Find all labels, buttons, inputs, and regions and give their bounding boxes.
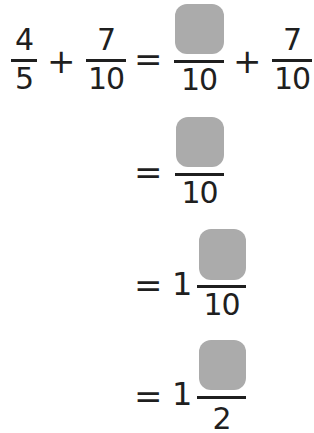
fraction-4-denominator: 10 (272, 64, 312, 94)
equals-sign: = (134, 42, 162, 76)
blank-numerator-box[interactable] (176, 117, 224, 167)
equals-sign: = (134, 268, 162, 302)
fraction-denominator: 10 (197, 290, 246, 320)
whole-number: 1 (172, 268, 192, 300)
equals-sign: = (134, 155, 162, 189)
fraction-denominator: 10 (175, 178, 224, 208)
fraction-3-denominator: 10 (174, 65, 224, 95)
blank-numerator-box[interactable] (199, 340, 246, 390)
blank-numerator-box[interactable] (175, 4, 224, 54)
fraction-2-denominator: 10 (86, 64, 126, 94)
fraction-4-numerator: 7 (272, 25, 312, 55)
fraction-denominator: 2 (197, 404, 246, 433)
fraction-bar (197, 396, 246, 399)
fraction-1-numerator: 4 (11, 25, 37, 55)
equals-sign: = (134, 379, 162, 413)
plus-operator: + (233, 44, 261, 78)
fraction-2-numerator: 7 (86, 25, 126, 55)
fraction-1-denominator: 5 (11, 64, 37, 94)
blank-numerator-box[interactable] (199, 229, 246, 280)
plus-operator: + (47, 44, 75, 78)
whole-number: 1 (172, 378, 192, 410)
